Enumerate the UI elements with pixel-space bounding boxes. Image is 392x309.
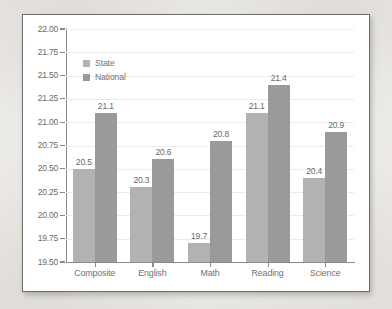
x-axis-tick-mark [152, 263, 153, 267]
y-axis-tick-mark [60, 168, 65, 169]
bar-math-national [210, 141, 232, 262]
y-axis-tick-label: 21.25 [24, 93, 58, 103]
y-axis-tick-label: 20.50 [24, 163, 58, 173]
y-axis-tick-mark [60, 98, 65, 99]
y-axis-tick-labels: 22.0021.7521.5021.2521.0020.7520.5020.25… [23, 15, 58, 293]
y-axis-tick-mark [60, 192, 65, 193]
gridline [66, 52, 354, 53]
y-axis-tick-label: 22.00 [24, 24, 58, 34]
chart-frame: 22.0021.7521.5021.2521.0020.7520.5020.25… [22, 14, 370, 292]
bar-value-label: 20.6 [146, 147, 180, 157]
gridline [66, 29, 354, 30]
y-axis-tick-mark [60, 52, 65, 53]
x-axis-tick-mark [268, 263, 269, 267]
legend-item-national: National [83, 71, 155, 83]
bar-science-state [303, 178, 325, 262]
y-axis-tick-mark [60, 75, 65, 76]
legend-label-state: State [95, 58, 115, 68]
bar-english-state [130, 187, 152, 262]
x-axis-tick-mark [95, 263, 96, 267]
y-axis-tick-label: 20.00 [24, 210, 58, 220]
y-axis-tick-mark [60, 261, 65, 262]
y-axis-tick-mark [60, 145, 65, 146]
bar-composite-national [95, 113, 117, 262]
y-axis-tick-label: 20.75 [24, 140, 58, 150]
bar-math-state [188, 243, 210, 262]
gridline [66, 99, 354, 100]
bar-english-national [152, 159, 174, 262]
y-axis-tick-label: 20.25 [24, 187, 58, 197]
bar-science-national [325, 132, 347, 262]
x-axis-tick-mark [325, 263, 326, 267]
y-axis-tick-label: 21.50 [24, 70, 58, 80]
legend-swatch-national-icon [83, 74, 90, 81]
x-axis-tick-mark [210, 263, 211, 267]
y-axis-tick-mark [60, 238, 65, 239]
bar-reading-state [246, 113, 268, 262]
bar-value-label: 21.1 [89, 101, 123, 111]
bar-composite-state [73, 169, 95, 262]
y-axis-tick-label: 21.00 [24, 117, 58, 127]
y-axis-tick-label: 19.75 [24, 233, 58, 243]
y-axis-tick-label: 21.75 [24, 47, 58, 57]
bar-reading-national [268, 85, 290, 262]
legend-swatch-state-icon [83, 60, 90, 67]
legend-label-national: National [95, 72, 126, 82]
bar-value-label: 20.9 [319, 120, 353, 130]
chart-legend: State National [83, 57, 155, 85]
y-axis-tick-mark [60, 28, 65, 29]
y-axis-tick-mark [60, 215, 65, 216]
bar-value-label: 21.4 [262, 73, 296, 83]
legend-item-state: State [83, 57, 155, 69]
y-axis-tick-label: 19.50 [24, 257, 58, 267]
y-axis-tick-mark [60, 122, 65, 123]
bar-value-label: 20.8 [204, 129, 238, 139]
x-axis-tick-label: Science [285, 268, 365, 278]
